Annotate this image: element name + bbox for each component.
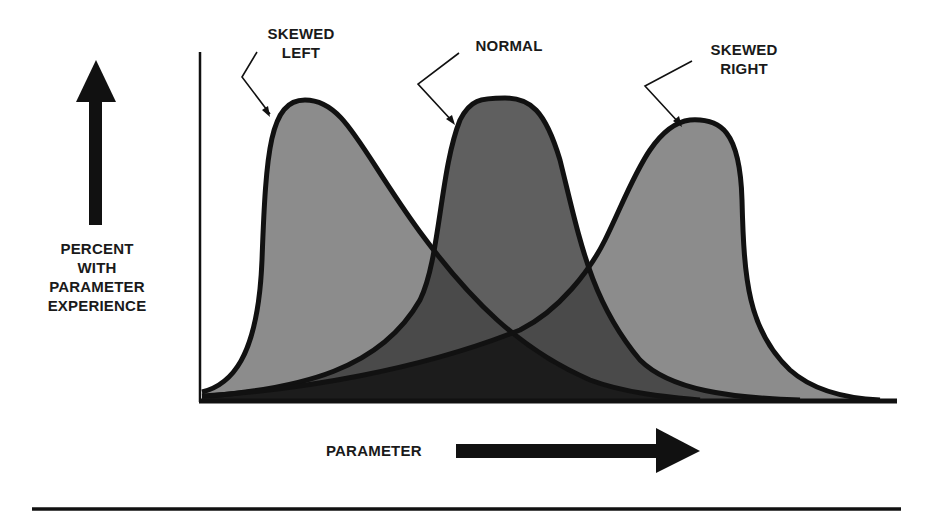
up-arrow-icon [76, 60, 116, 225]
label-normal: NORMAL [464, 36, 554, 55]
right-arrow-icon [456, 428, 700, 473]
x-axis-label: PARAMETER [326, 441, 422, 460]
callout-normal [418, 53, 459, 122]
callout-skewed-right [645, 61, 692, 124]
y-axis-label: PERCENT WITH PARAMETER EXPERIENCE [28, 239, 166, 315]
callout-arrowhead-left [262, 106, 270, 117]
label-skewed-right: SKEWED RIGHT [698, 40, 790, 78]
label-skewed-left: SKEWED LEFT [258, 24, 344, 62]
